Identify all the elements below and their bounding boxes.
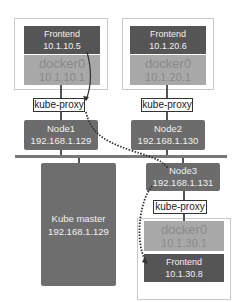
arrowhead-icon bbox=[83, 96, 89, 101]
arrowhead-icon bbox=[142, 257, 148, 264]
traffic-path-arrow bbox=[0, 0, 240, 302]
